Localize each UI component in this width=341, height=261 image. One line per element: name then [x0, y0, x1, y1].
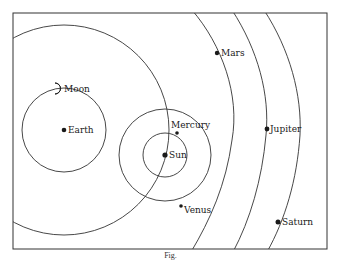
- sun-dot: [162, 152, 167, 157]
- label-sun: Sun: [169, 150, 187, 160]
- figure-caption: Fig.: [0, 251, 341, 260]
- solar-system-diagram: Moon Earth Mercury Sun Venus Mars Jupite…: [0, 0, 341, 261]
- label-jupiter: Jupiter: [269, 124, 302, 134]
- label-saturn: Saturn: [282, 217, 313, 227]
- label-earth: Earth: [68, 125, 94, 135]
- mercury-dot: [175, 131, 179, 135]
- earth-dot: [62, 128, 67, 133]
- label-venus: Venus: [183, 205, 212, 215]
- label-mars: Mars: [221, 48, 245, 58]
- label-mercury: Mercury: [171, 120, 211, 130]
- venus-dot: [179, 204, 183, 208]
- jupiter-orbit: [232, 10, 267, 252]
- saturn-dot: [276, 220, 281, 225]
- mars-orbit: [191, 10, 234, 252]
- mars-dot: [215, 51, 219, 55]
- label-moon: Moon: [64, 84, 90, 94]
- jupiter-dot: [265, 127, 270, 132]
